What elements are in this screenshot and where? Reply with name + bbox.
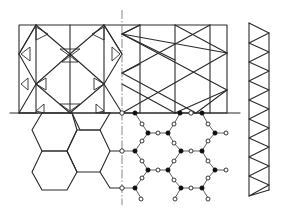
- honeycomb-panel: [32, 113, 122, 190]
- frame-rect: [19, 25, 227, 113]
- truss-strip: [249, 23, 269, 196]
- ball-stick-lattice: [120, 111, 228, 201]
- lattice-diagram: [0, 0, 281, 212]
- kagome-frame-panel: [19, 25, 227, 113]
